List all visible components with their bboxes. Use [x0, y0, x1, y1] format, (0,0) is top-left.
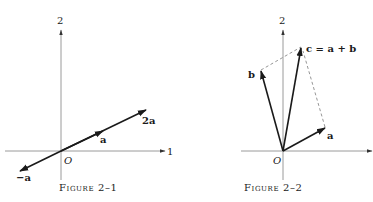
dashed-a-to-c [303, 51, 325, 127]
vector-c-label: c = a + b [306, 43, 356, 54]
vector-a-label: a [100, 134, 107, 145]
figure-2-2-caption: Figure 2–2 [244, 182, 302, 193]
origin-label: O [273, 155, 281, 166]
figure-2-1: 2 1 O a 2a −a [5, 15, 173, 183]
vector-neg-a [20, 151, 61, 171]
vector-a-label: a [327, 130, 334, 141]
vector-neg-a-label: −a [16, 172, 31, 183]
horizontal-axis-label: 1 [167, 146, 173, 157]
vertical-axis-label: 2 [279, 15, 285, 26]
vector-b [261, 71, 283, 151]
vector-a [61, 131, 103, 151]
origin-label: O [64, 155, 72, 166]
figures-canvas: 2 1 O a 2a −a 2 O a b c = a + b [0, 0, 373, 202]
vector-b-label: b [248, 69, 255, 80]
vertical-axis-label: 2 [57, 15, 63, 26]
figure-2-1-caption: Figure 2–1 [59, 182, 117, 193]
vector-2a-label: 2a [142, 115, 156, 126]
dashed-b-to-c [261, 47, 301, 70]
vector-c [283, 48, 301, 151]
figure-2-2: 2 O a b c = a + b [241, 15, 372, 180]
vector-a [283, 128, 325, 151]
